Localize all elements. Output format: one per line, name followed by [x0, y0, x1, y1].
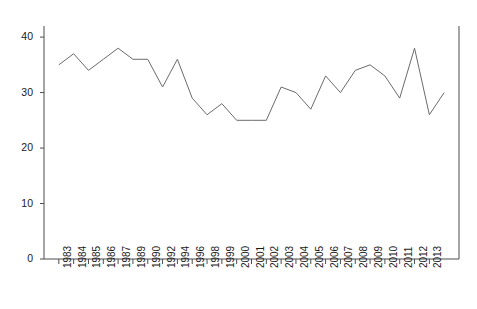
x-tick-label: 2011 [404, 247, 414, 268]
x-tick-label: 2005 [315, 246, 325, 268]
x-tick-label: 2001 [256, 246, 266, 268]
x-tick-label: 1985 [92, 246, 102, 268]
x-tick-label: 1992 [167, 246, 177, 268]
x-tick-label: 2013 [433, 246, 443, 268]
x-tick-label: 1987 [122, 246, 132, 268]
x-tick-label: 1998 [211, 246, 221, 268]
x-tick-label: 2000 [241, 246, 251, 268]
x-tick-label: 2009 [374, 246, 384, 268]
x-tick-label: 2010 [389, 246, 399, 268]
x-tick-label: 2002 [270, 246, 280, 268]
x-tick-label: 1989 [137, 246, 147, 268]
y-tick-label: 40 [7, 31, 33, 42]
x-tick-label: 2007 [344, 246, 354, 268]
axes-group [44, 26, 459, 259]
line-chart: 010203040 198319841985198619871989199019… [0, 0, 477, 309]
y-tick-label: 30 [7, 87, 33, 98]
x-tick-label: 1986 [107, 246, 117, 268]
y-tick-label: 10 [7, 198, 33, 209]
x-tick-label: 2008 [359, 246, 369, 268]
x-tick-label: 1984 [78, 246, 88, 268]
x-tick-label: 1990 [152, 246, 162, 268]
y-tick-label: 0 [7, 253, 33, 264]
x-tick-label: 2012 [419, 246, 429, 268]
x-tick-label: 2003 [285, 246, 295, 268]
x-tick-label: 2004 [300, 246, 310, 268]
x-tick-label: 1994 [181, 246, 191, 268]
x-tick-label: 1999 [226, 246, 236, 268]
data-series-line [59, 48, 444, 120]
y-tick-marks [40, 37, 44, 259]
x-tick-label: 2006 [330, 246, 340, 268]
x-tick-label: 1983 [63, 246, 73, 268]
x-tick-label: 1996 [196, 246, 206, 268]
y-tick-label: 20 [7, 142, 33, 153]
